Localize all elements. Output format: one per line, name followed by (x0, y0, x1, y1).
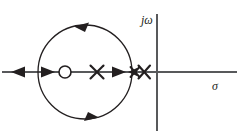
root-locus-figure: jω σ (0, 0, 239, 135)
circle-arrow-top (74, 23, 89, 33)
root-locus-canvas: jω σ (0, 0, 239, 135)
zero-marker (59, 66, 71, 78)
real-axis-arrow-left (11, 67, 25, 78)
real-axis-arrow-right-1 (41, 67, 55, 78)
sigma-axis-label: σ (212, 79, 219, 93)
j-omega-axis-label: jω (139, 13, 153, 27)
circle-arrow-bottom (84, 112, 99, 121)
real-axis-arrow-right-2 (112, 67, 126, 78)
